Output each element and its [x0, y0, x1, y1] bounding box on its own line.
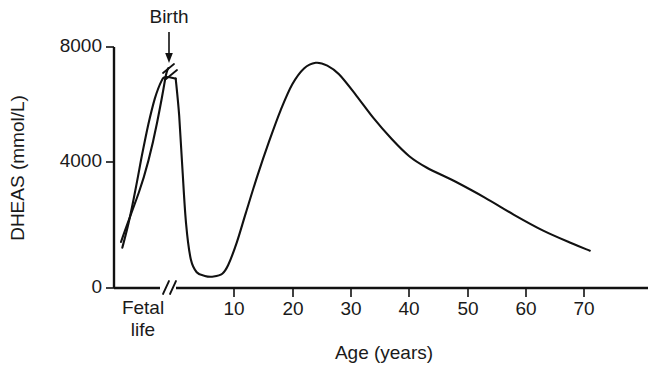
x-tick-label-70: 70	[573, 298, 594, 319]
x-tick-label-40: 40	[398, 298, 419, 319]
x-tick-label-10: 10	[223, 298, 244, 319]
y-tick-label-4000: 4000	[60, 150, 102, 171]
fetal-life-label-line1: Fetal	[122, 297, 164, 318]
dheas-age-chart-figure: 0 4000 8000 10 20 30 40 50 60 70	[0, 0, 665, 378]
y-tick-label-8000: 8000	[60, 35, 102, 56]
x-tick-label-20: 20	[282, 298, 303, 319]
x-tick-label-50: 50	[457, 298, 478, 319]
y-axis-title: DHEAS (mmol/L)	[7, 95, 28, 241]
x-axis-title: Age (years)	[335, 342, 433, 363]
x-tick-label-30: 30	[340, 298, 361, 319]
y-tick-label-0: 0	[91, 276, 102, 297]
chart-canvas: 0 4000 8000 10 20 30 40 50 60 70	[0, 0, 665, 378]
x-tick-label-60: 60	[515, 298, 536, 319]
birth-annotation-label: Birth	[149, 6, 188, 27]
fetal-life-label-line2: life	[131, 319, 155, 340]
chart-background	[0, 0, 665, 378]
